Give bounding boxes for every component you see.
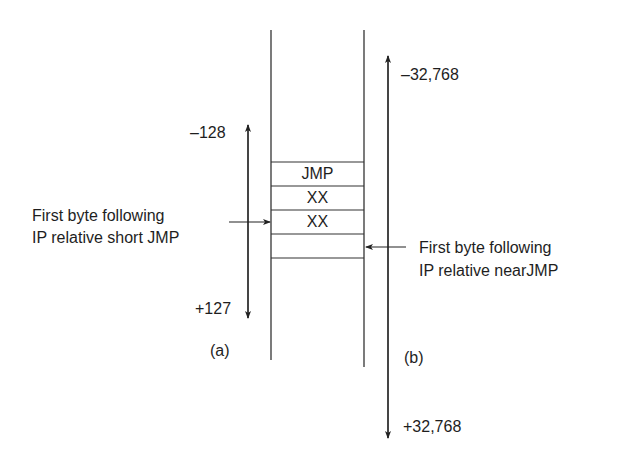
short-jump-pointer-label-line2: IP relative short JMP (32, 229, 179, 247)
near-jump-pointer-label-line1: First byte following (419, 239, 552, 257)
panel-label-a: (a) (210, 342, 230, 360)
short-jump-pointer-label-line1: First byte following (32, 207, 165, 225)
short-jump-range-bottom-label: +127 (195, 300, 231, 318)
memory-cell-opcode: JMP (271, 162, 364, 186)
memory-cell-operand-2: XX (271, 210, 364, 234)
panel-label-b: (b) (404, 349, 424, 367)
memory-cell-next (271, 234, 364, 258)
near-jump-range-top-label: –32,768 (401, 66, 459, 84)
memory-cell-operand-1: XX (271, 186, 364, 210)
near-jump-pointer-label-line2: IP relative nearJMP (419, 262, 558, 280)
short-jump-range-top-label: –128 (190, 124, 226, 142)
near-jump-range-bottom-label: +32,768 (403, 418, 461, 436)
